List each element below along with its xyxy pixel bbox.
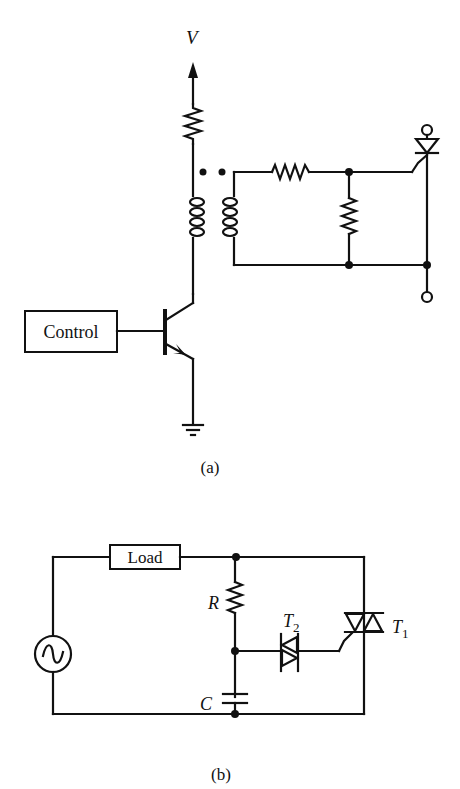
series-resistor-icon [272, 165, 309, 179]
capacitor-c-label: C [200, 694, 213, 714]
figure-a: V [25, 27, 438, 477]
diac-t2-label: T2 [283, 611, 300, 635]
circuit-diagram: V [0, 0, 460, 789]
npn-transistor-icon [165, 294, 193, 424]
supply-voltage-label: V [186, 27, 200, 48]
supply-arrow-icon [188, 62, 198, 104]
ac-source-icon [35, 636, 71, 672]
secondary-polarity-dot [219, 169, 226, 176]
primary-polarity-dot [200, 169, 207, 176]
junction-dot [345, 261, 353, 269]
resistor-r-icon [228, 582, 242, 613]
scr-icon [416, 139, 438, 153]
shunt-resistor-icon [342, 198, 356, 234]
transformer-secondary-icon [223, 198, 237, 236]
triac-t1-icon [339, 613, 383, 651]
figure-b: Load R C T2 [35, 545, 409, 784]
collector-resistor-icon [185, 104, 201, 144]
cathode-terminal-icon[interactable] [422, 292, 432, 302]
resistor-r-label: R [207, 593, 219, 613]
triac-t1-label: T1 [392, 617, 409, 641]
caption-b: (b) [211, 765, 231, 784]
load-label: Load [128, 548, 163, 567]
caption-a: (a) [201, 458, 220, 477]
ground-icon [183, 425, 203, 435]
transformer-primary-icon [190, 198, 204, 236]
control-label: Control [43, 322, 98, 342]
diac-t2-icon [281, 634, 298, 671]
anode-terminal-icon[interactable] [422, 125, 432, 135]
